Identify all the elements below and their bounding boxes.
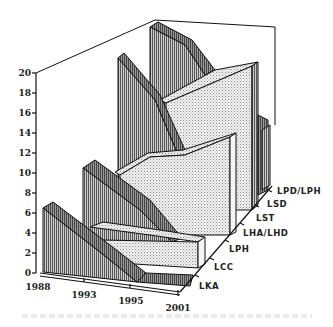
y-tick: 12 <box>18 148 31 158</box>
y-tick: 2 <box>25 248 31 258</box>
y-tick: 6 <box>25 208 31 218</box>
x-tick-labels: 1988 1993 1995 2001 <box>25 282 190 313</box>
series-label-lcc: LCC <box>214 262 233 272</box>
series-label-lka: LKA <box>199 281 219 291</box>
y-tick: 16 <box>18 108 31 118</box>
series-label-lsd: LSD <box>267 199 287 209</box>
series-label-lst: LST <box>256 213 275 223</box>
y-tick: 18 <box>18 88 31 98</box>
series-tail-right <box>258 115 270 195</box>
y-axis <box>32 73 36 273</box>
3d-area-chart: 20 18 16 14 12 10 8 6 4 2 0 1988 1993 19… <box>0 0 333 327</box>
x-tick: 1993 <box>71 290 96 300</box>
x-tick: 2001 <box>165 303 190 313</box>
series-label-lpd-lph: LPD/LPH <box>277 186 321 196</box>
x-tick: 1988 <box>25 282 50 292</box>
y-tick: 14 <box>18 128 31 138</box>
y-tick: 4 <box>25 228 31 238</box>
x-tick: 1995 <box>118 296 143 306</box>
y-tick: 10 <box>18 168 31 178</box>
y-tick: 0 <box>25 268 31 278</box>
y-tick-labels: 20 18 16 14 12 10 8 6 4 2 0 <box>18 68 31 278</box>
y-tick: 8 <box>25 188 31 198</box>
series-label-lha-lhd: LHA/LHD <box>243 228 288 238</box>
caption-strip <box>22 314 312 318</box>
y-tick: 20 <box>18 68 31 78</box>
series-label-lph: LPH <box>229 244 249 254</box>
